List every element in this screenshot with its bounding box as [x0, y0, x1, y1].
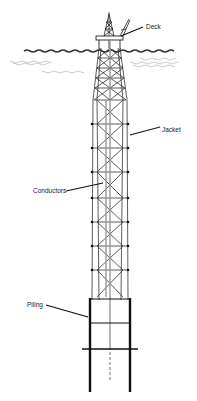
derrick-icon [104, 12, 114, 36]
water-ripples [10, 58, 178, 73]
jacket-label: Jacket [162, 127, 181, 134]
conductors-label: Conductors [33, 188, 66, 195]
deck-label: Deck [146, 24, 161, 31]
deck-platform [96, 36, 123, 40]
piling-label: Piling [27, 302, 43, 309]
platform-drawing [0, 0, 197, 401]
